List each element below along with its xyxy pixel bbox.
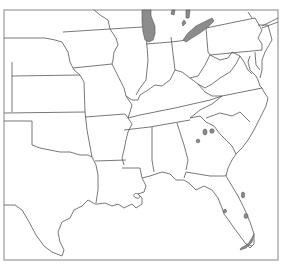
florida-east-coast-spot — [241, 192, 244, 198]
state-borders — [4, 10, 278, 203]
georgia-sc-spot-1 — [210, 129, 214, 133]
map-frame — [4, 10, 278, 260]
lake-huron-spot — [186, 10, 190, 18]
georgia-sc-spot-2 — [203, 129, 207, 135]
lake-erie-area — [183, 18, 214, 42]
lake-michigan-area — [142, 10, 155, 42]
florida-gulf-spot — [224, 209, 227, 213]
map-canvas — [0, 0, 290, 266]
highlighted-areas — [142, 10, 254, 250]
lake-huron-bay-spot — [171, 10, 175, 15]
coastline — [4, 60, 268, 256]
florida-keys-spot — [240, 234, 254, 250]
georgia-spot-3 — [196, 139, 200, 143]
florida-interior-spot — [244, 214, 248, 219]
saginaw-bay-spot — [182, 20, 186, 26]
